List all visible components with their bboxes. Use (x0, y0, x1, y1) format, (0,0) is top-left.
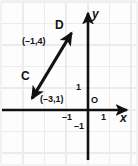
origin-label: O (91, 96, 98, 105)
point-coords-d: (–1,4) (22, 37, 46, 46)
point-coords-c: (–3,1) (40, 95, 64, 104)
point-label-c: C (21, 70, 30, 82)
y-axis-label: y (92, 8, 99, 20)
x-tick-label-positive-one: 1 (101, 113, 106, 122)
y-tick-label-positive-one: 1 (76, 83, 81, 92)
x-axis-label: x (120, 112, 127, 124)
coordinate-plane-figure: D (–1,4) C (–3,1) x y O 1 –1 1 –1 (0, 0, 138, 166)
vector-cd-layer (0, 0, 138, 166)
point-label-d: D (55, 19, 64, 31)
y-tick-label-negative-one: –1 (74, 122, 84, 131)
x-tick-label-negative-one: –1 (62, 113, 72, 122)
